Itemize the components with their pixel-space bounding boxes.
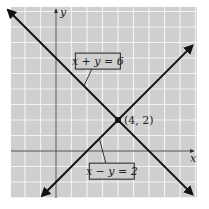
y-axis-label: y	[59, 6, 67, 19]
equation-label-0: x + y = 6	[72, 55, 124, 68]
intersection-point	[115, 117, 121, 123]
chart: (4, 2)x + y = 6x − y = 2 x y	[0, 0, 209, 209]
intersection-label: (4, 2)	[124, 114, 154, 127]
equation-label-1: x − y = 2	[86, 165, 138, 178]
x-axis-label: x	[190, 152, 197, 165]
